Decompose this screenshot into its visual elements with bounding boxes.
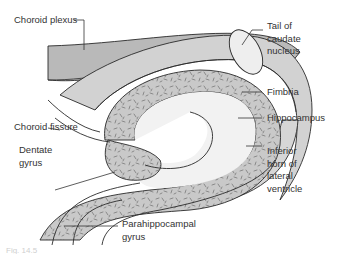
hippocampus-diagram: Choroid plexus Tail of caudate nucleus F… [0,0,340,254]
label-fimbria: Fimbria [267,86,299,99]
label-dentate-gyrus: Dentate gyrus [19,144,52,169]
label-choroid-fissure: Choroid fissure [14,121,78,134]
label-choroid-plexus: Choroid plexus [14,14,77,27]
dentate-gyrus-shape [105,140,161,180]
label-inferior-horn-of-lateral-ventricle: Inferior horn of lateral ventricle [267,145,302,195]
label-hippocampus: Hippocampus [267,112,325,125]
label-tail-of-caudate-nucleus: Tail of caudate nucleus [267,20,301,58]
figure-caption: Fig. 14.5 [6,246,37,254]
label-parahippocampal-gyrus: Parahippocampal gyrus [122,218,196,243]
